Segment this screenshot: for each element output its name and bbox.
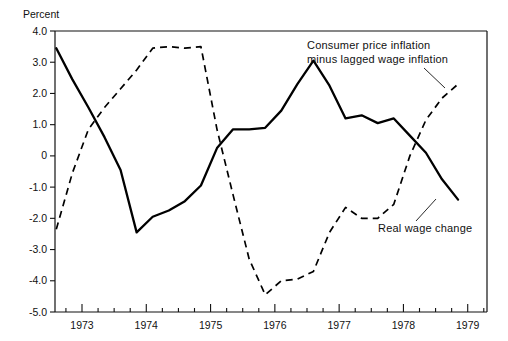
y-tick-label: 3.0 [32, 56, 47, 68]
y-tick-label: -3.0 [29, 243, 47, 255]
annotation-solid-line2: minus lagged wage inflation [307, 53, 448, 65]
series-group [56, 47, 458, 295]
y-tick-label: 4.0 [32, 25, 47, 37]
y-tick-label: -1.0 [29, 181, 47, 193]
annotation-real-wage-change: Real wage change [378, 199, 472, 234]
y-tick-label: 2.0 [32, 87, 47, 99]
x-tick-label: 1974 [135, 319, 159, 331]
chart-figure: Percent 4.03.02.01.00-1.0-2.0-3.0-4.0-5.… [0, 0, 508, 341]
annotation-dashed-label: Real wage change [378, 222, 472, 234]
x-tick-label: 1978 [392, 319, 416, 331]
x-tick-label: 1975 [199, 319, 223, 331]
x-tick-label: 1977 [327, 319, 351, 331]
annotation-dashed-leader [416, 199, 436, 221]
x-tick-label: 1979 [456, 319, 480, 331]
y-tick-label: 0 [41, 149, 47, 161]
x-axis-ticks: 1973197419751976197719781979 [66, 304, 484, 331]
annotation-solid-line1: Consumer price inflation [307, 39, 430, 51]
y-axis-ticks: 4.03.02.01.00-1.0-2.0-3.0-4.0-5.0 [29, 25, 55, 318]
line-chart: Percent 4.03.02.01.00-1.0-2.0-3.0-4.0-5.… [0, 0, 508, 341]
series-consumer-price-inflation-line [56, 48, 458, 232]
y-tick-label: -4.0 [29, 274, 47, 286]
x-tick-label: 1973 [70, 319, 94, 331]
y-tick-label: -2.0 [29, 212, 47, 224]
annotation-consumer-price-inflation: Consumer price inflation minus lagged wa… [307, 39, 448, 88]
x-tick-label: 1976 [263, 319, 287, 331]
y-axis-title: Percent [23, 8, 59, 20]
y-tick-label: -5.0 [29, 306, 47, 318]
annotation-solid-leader [424, 68, 445, 88]
series-real-wage-change-line [56, 47, 458, 295]
y-tick-label: 1.0 [32, 118, 47, 130]
